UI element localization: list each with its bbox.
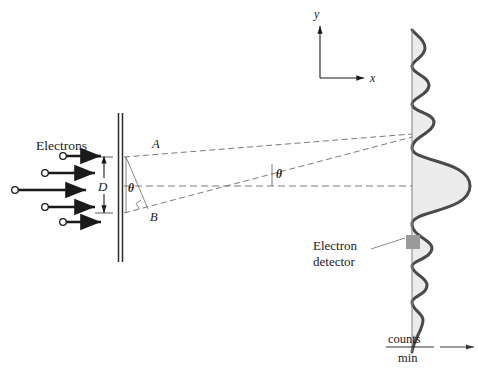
intensity-fill — [412, 30, 470, 352]
electron-arrow — [60, 153, 101, 160]
coordinate-axes: y x — [313, 7, 376, 85]
diffracted-rays: A B θ — [124, 134, 412, 224]
detector-label-line-2: detector — [313, 254, 356, 269]
electron-arrow — [12, 187, 86, 194]
theta-label-slit: θ — [128, 182, 134, 194]
ray-a-label: A — [151, 137, 160, 151]
detector-label-line-1: Electron — [313, 238, 358, 253]
theta-label-screen: θ — [276, 168, 282, 180]
electron-diffraction-diagram: y x Electrons D — [0, 0, 478, 370]
electron-dot — [42, 204, 49, 211]
x-axis-label: x — [369, 71, 376, 85]
ray-b-line — [124, 137, 412, 213]
electrons-label: Electrons — [36, 138, 87, 153]
slit-width-label: D — [97, 179, 108, 194]
electron-dot — [60, 219, 67, 226]
figure-canvas: y x Electrons D — [0, 0, 478, 370]
electron-dot — [12, 187, 19, 194]
electron-arrow — [42, 204, 95, 211]
slit-width-dimension: D — [95, 157, 113, 213]
y-axis-label: y — [313, 7, 320, 21]
electron-detector-square[interactable] — [406, 235, 420, 249]
detector-leader-line — [371, 238, 405, 249]
counts-numerator: counts — [388, 332, 421, 346]
electron-dot — [42, 170, 49, 177]
path-difference-triangle: θ — [126, 157, 148, 213]
right-angle-marker — [136, 200, 141, 209]
ray-a-line — [124, 134, 412, 157]
counts-per-min-axis: counts min — [386, 332, 474, 365]
intensity-pattern — [412, 30, 470, 352]
electron-arrow — [60, 219, 101, 226]
counts-denominator: min — [398, 351, 418, 365]
electron-source-group: Electrons — [12, 138, 101, 225]
electron-detector-group[interactable]: Electron detector — [313, 235, 420, 269]
barrier-with-slit — [119, 113, 123, 262]
electron-arrow — [42, 170, 95, 177]
electron-dot — [60, 153, 67, 160]
ray-b-label: B — [150, 210, 158, 224]
